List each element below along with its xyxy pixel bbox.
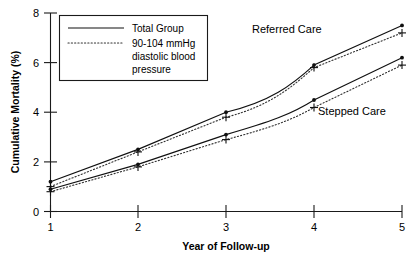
data-point-stepped-total-y5: [400, 56, 404, 60]
legend-label-90-104-mmhg: 90-104 mmHg: [132, 38, 195, 49]
x-tick-label-2: 2: [135, 221, 141, 233]
chart-figure: 0 2 4 6 8 1 2 3 4 5 Year of Follow-up Cu…: [0, 0, 416, 262]
chart-legend: Total Group 90-104 mmHg diastolic blood …: [60, 16, 208, 81]
y-tick-label-0: 0: [33, 206, 39, 218]
legend-label-pressure: pressure: [132, 64, 171, 75]
x-tick-label-3: 3: [223, 221, 229, 233]
y-tick-label-4: 4: [33, 106, 39, 118]
x-axis-title: Year of Follow-up: [182, 240, 270, 252]
mortality-line-chart: 0 2 4 6 8 1 2 3 4 5 Year of Follow-up Cu…: [0, 0, 416, 262]
annotation-referred-care: Referred Care: [252, 23, 322, 35]
x-tick-label-5: 5: [399, 221, 405, 233]
annotation-stepped-care: Stepped Care: [318, 105, 386, 117]
y-tick-label-6: 6: [33, 57, 39, 69]
y-axis-title: Cumulative Mortality (%): [9, 51, 21, 174]
y-tick-label-2: 2: [33, 156, 39, 168]
x-tick-label-4: 4: [311, 221, 317, 233]
y-tick-label-8: 8: [33, 7, 39, 19]
legend-label-total-group: Total Group: [132, 23, 184, 34]
x-tick-label-1: 1: [47, 221, 53, 233]
data-point-stepped-total-y4: [312, 98, 316, 102]
data-point-referred-total-y5: [400, 24, 404, 28]
legend-label-diastolic-blood: diastolic blood: [132, 51, 195, 62]
